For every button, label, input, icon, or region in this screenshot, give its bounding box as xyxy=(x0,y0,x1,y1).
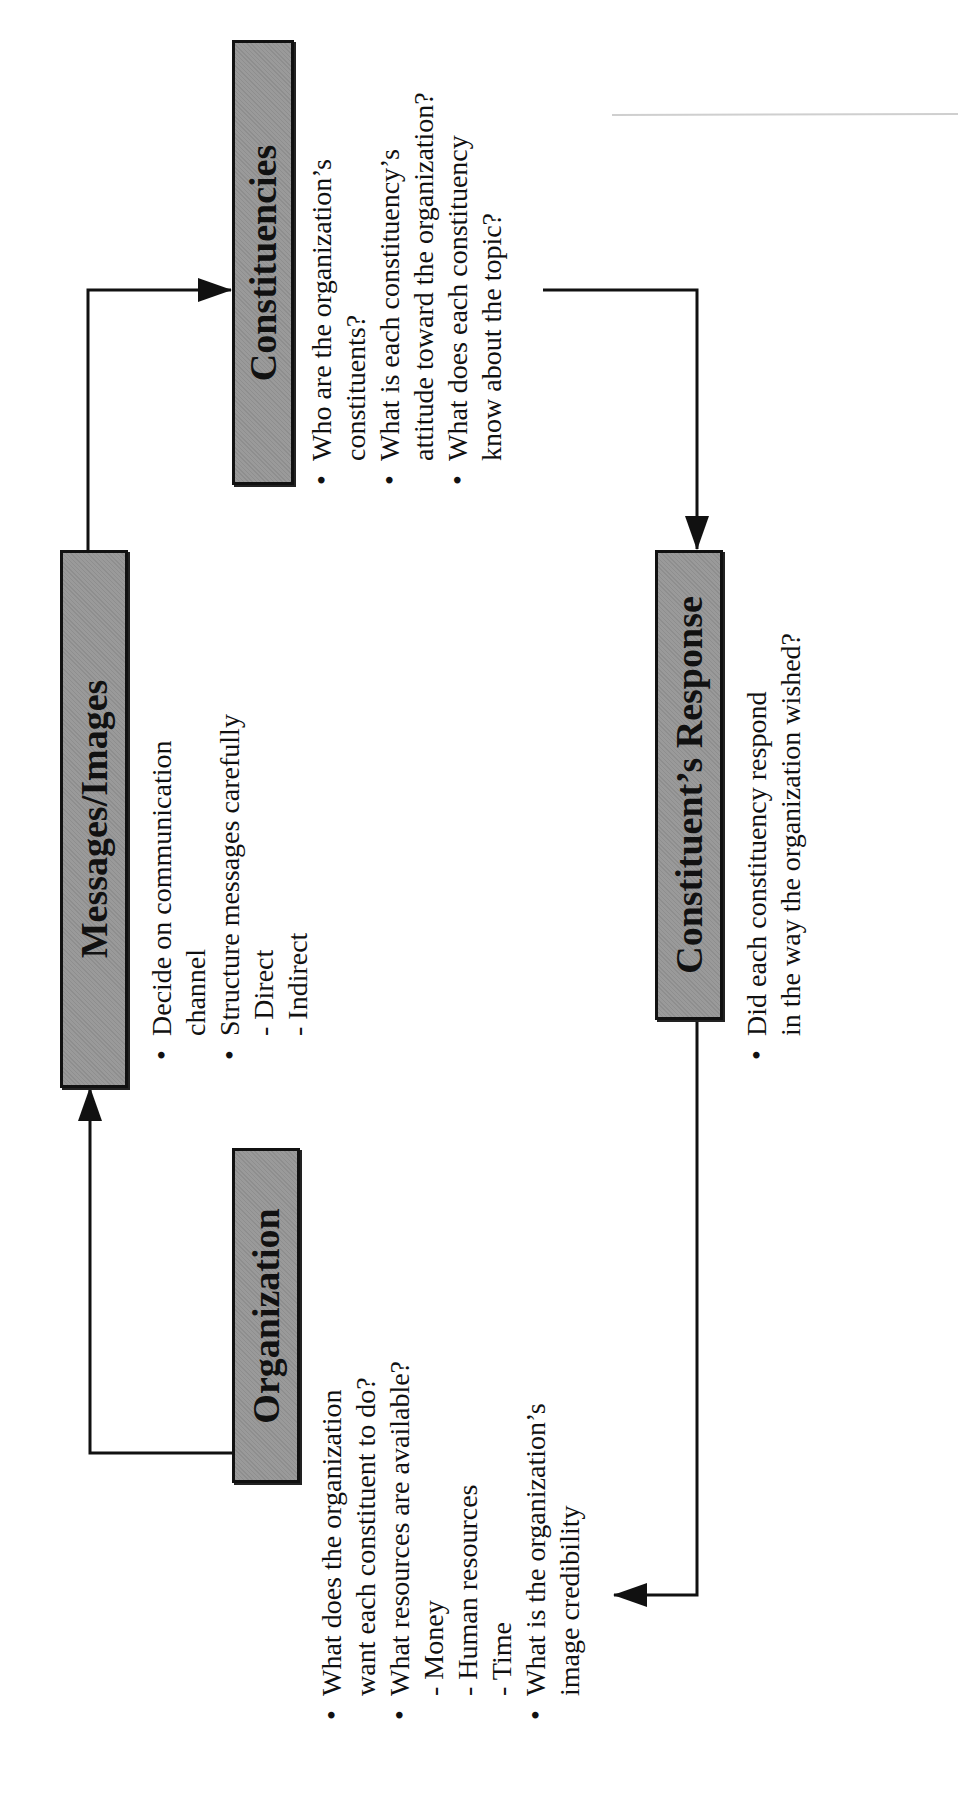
constituencies-bullets: Who are the organization’s constituents?… xyxy=(305,92,509,485)
node-title: Constituencies xyxy=(241,144,285,380)
bullet-text: What is the organization’s xyxy=(519,1361,553,1720)
node-title: Organization xyxy=(244,1208,288,1423)
bullet-text: Decide on communication xyxy=(145,714,179,1060)
node-title: Messages/Images xyxy=(72,680,116,959)
bullet-text: in the way the organization wished? xyxy=(774,633,808,1060)
bullet-text: Who are the organization’s xyxy=(305,92,339,485)
node-constituents-response: Constituent’s Response xyxy=(655,550,723,1020)
bullet-text: What does the organization xyxy=(315,1361,349,1720)
node-constituencies: Constituencies xyxy=(232,40,294,485)
bullet-text: want each constituent to do? xyxy=(349,1361,383,1720)
bullet-text: Structure messages carefully xyxy=(213,714,247,1060)
bullet-text: image credibility xyxy=(553,1361,587,1720)
node-title: Constituent’s Response xyxy=(667,596,711,974)
bullet-text: know about the topic? xyxy=(475,92,509,485)
bullet-text: What does each constituency xyxy=(441,92,475,485)
bullet-text: constituents? xyxy=(339,92,373,485)
response-bullets: Did each constituency respond in the way… xyxy=(740,633,808,1060)
arrow-constituencies-to-response xyxy=(543,290,697,549)
node-organization: Organization xyxy=(232,1148,300,1483)
arrow-messages-to-constituencies xyxy=(88,290,231,550)
arrow-response-to-organization xyxy=(614,1020,697,1595)
bullet-text: - Indirect xyxy=(281,714,315,1060)
messages-bullets: Decide on communication channel Structur… xyxy=(145,714,315,1060)
node-messages-images: Messages/Images xyxy=(60,550,128,1088)
bullet-text: - Human resources xyxy=(451,1361,485,1720)
organization-bullets: What does the organization want each con… xyxy=(315,1361,587,1720)
bullet-text: - Time xyxy=(485,1361,519,1720)
bullet-text: What resources are available? xyxy=(383,1361,417,1720)
bullet-text: channel xyxy=(179,714,213,1060)
bullet-text: What is each constituency’s xyxy=(373,92,407,485)
arrow-organization-to-messages xyxy=(90,1088,232,1453)
bullet-text: - Direct xyxy=(247,714,281,1060)
bullet-text: - Money xyxy=(417,1361,451,1720)
bullet-text: Did each constituency respond xyxy=(740,633,774,1060)
bullet-text: attitude toward the organization? xyxy=(407,92,441,485)
